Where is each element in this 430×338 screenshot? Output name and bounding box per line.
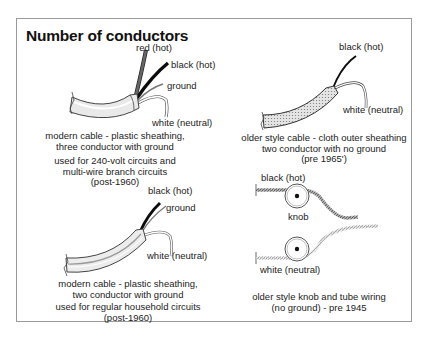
wire-label-black: black (hot) [171,59,215,70]
panel-3-usage: used for regular household circuits (pos… [55,302,200,323]
caption-line: three conductor with ground [45,142,184,153]
wire-label-white: white (neutral) [260,264,320,275]
wire-label-black: black (hot) [339,41,383,52]
panel-1-usage: used for 240-volt circuits and multi-wir… [54,156,175,188]
older-cloth-cable-icon [261,56,366,130]
panel-2-caption: older style cable - cloth outer sheathin… [241,133,406,165]
panel-4-caption: older style knob and tube wiring (no gro… [252,292,386,313]
caption-line: modern cable - plastic sheathing, [58,279,197,290]
usage-line: (post-1960) [55,313,200,324]
caption-line: older style knob and tube wiring [252,292,386,303]
caption-line: (no ground) - pre 1945 [252,303,386,314]
wire-label-black: black (hot) [261,172,305,183]
caption-line: older style cable - cloth outer sheathin… [241,133,406,144]
wire-label-white: white (neutral) [147,250,207,261]
wire-label-white: white (neutral) [343,104,403,115]
caption-line: two conductor with ground [58,290,197,301]
wire-label-black: black (hot) [148,185,192,196]
caption-line: modern cable - plastic sheathing, [45,131,184,142]
caption-line: (pre 1965') [241,154,406,165]
wire-label-ground: ground [167,80,197,91]
knob-label: knob [288,211,309,222]
modern-2-conductor-cable-icon [64,203,172,276]
panel-1-caption: modern cable - plastic sheathing, three … [45,131,184,152]
modern-3-conductor-cable-icon [70,50,168,118]
panel-3-caption: modern cable - plastic sheathing, two co… [58,279,197,300]
wire-label-red: red (hot) [136,42,172,53]
wire-label-ground: ground [166,202,196,213]
usage-line: used for regular household circuits [55,302,200,313]
usage-line: used for 240-volt circuits and [54,156,175,167]
wire-label-white: white (neutral) [152,117,212,128]
knob-and-tube-icon [256,184,378,264]
